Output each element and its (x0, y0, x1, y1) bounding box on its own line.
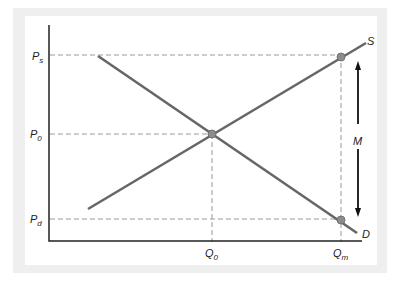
p0-label-sub: 0 (37, 134, 42, 143)
arrow-label-m: M (353, 135, 363, 147)
qm-label-sub: m (342, 253, 349, 262)
supply-demand-diagram: S D M Ps P0 Pd Q0 Qm (0, 0, 399, 283)
equilibrium-point (208, 130, 216, 138)
q0-label-sub: 0 (214, 253, 219, 262)
supply-label: S (367, 35, 375, 47)
supply-price-point (337, 53, 345, 61)
demand-price-point (337, 216, 345, 224)
demand-label: D (362, 228, 370, 240)
ps-label-sub: s (39, 56, 43, 65)
pd-label-sub: d (37, 219, 42, 228)
